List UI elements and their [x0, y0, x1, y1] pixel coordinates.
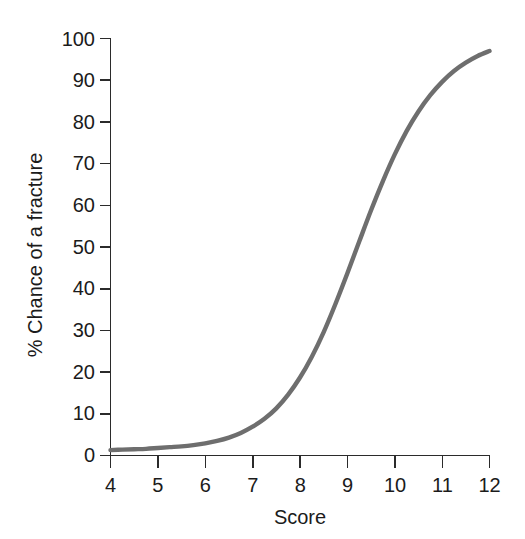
y-tick-label-60: 60 — [73, 194, 95, 216]
y-tick-label-50: 50 — [73, 236, 95, 258]
x-tick-label-5: 5 — [152, 474, 163, 496]
x-tick-label-7: 7 — [247, 474, 258, 496]
fracture-risk-line-chart: 0 10 20 30 40 50 60 70 80 90 100 4 5 — [0, 0, 525, 539]
x-axis-title: Score — [274, 506, 326, 528]
y-tick-label-0: 0 — [84, 444, 95, 466]
x-tick-label-12: 12 — [478, 474, 500, 496]
y-tick-label-90: 90 — [73, 69, 95, 91]
y-tick-label-40: 40 — [73, 277, 95, 299]
y-axis-title: % Chance of a fracture — [24, 153, 46, 358]
y-tick-label-20: 20 — [73, 361, 95, 383]
y-tick-label-100: 100 — [62, 28, 95, 50]
x-tick-label-6: 6 — [200, 474, 211, 496]
chart-figure: 0 10 20 30 40 50 60 70 80 90 100 4 5 — [0, 0, 525, 539]
x-tick-label-4: 4 — [105, 474, 116, 496]
y-tick-label-10: 10 — [73, 402, 95, 424]
y-tick-label-70: 70 — [73, 152, 95, 174]
x-tick-label-11: 11 — [432, 474, 453, 496]
y-tick-label-30: 30 — [73, 319, 95, 341]
x-tick-label-9: 9 — [342, 474, 353, 496]
y-tick-label-80: 80 — [73, 111, 95, 133]
x-tick-label-8: 8 — [295, 474, 306, 496]
x-tick-label-10: 10 — [384, 474, 406, 496]
